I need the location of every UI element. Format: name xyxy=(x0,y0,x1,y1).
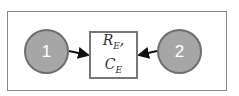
comma: , xyxy=(120,32,124,48)
center-line-1: RE, xyxy=(103,31,125,55)
node-1-label: 1 xyxy=(42,42,51,62)
arrow-2-to-center xyxy=(139,51,157,55)
r-symbol: R xyxy=(103,32,114,48)
center-line-2: CE xyxy=(105,55,122,79)
center-box: RE, CE xyxy=(89,31,138,79)
node-2-label: 2 xyxy=(175,42,184,62)
node-2: 2 xyxy=(157,29,202,74)
r-subscript: E xyxy=(113,41,120,51)
arrow-1-to-center xyxy=(69,51,88,55)
c-symbol: C xyxy=(105,56,116,72)
c-subscript: E xyxy=(116,65,123,75)
node-1: 1 xyxy=(24,29,69,74)
